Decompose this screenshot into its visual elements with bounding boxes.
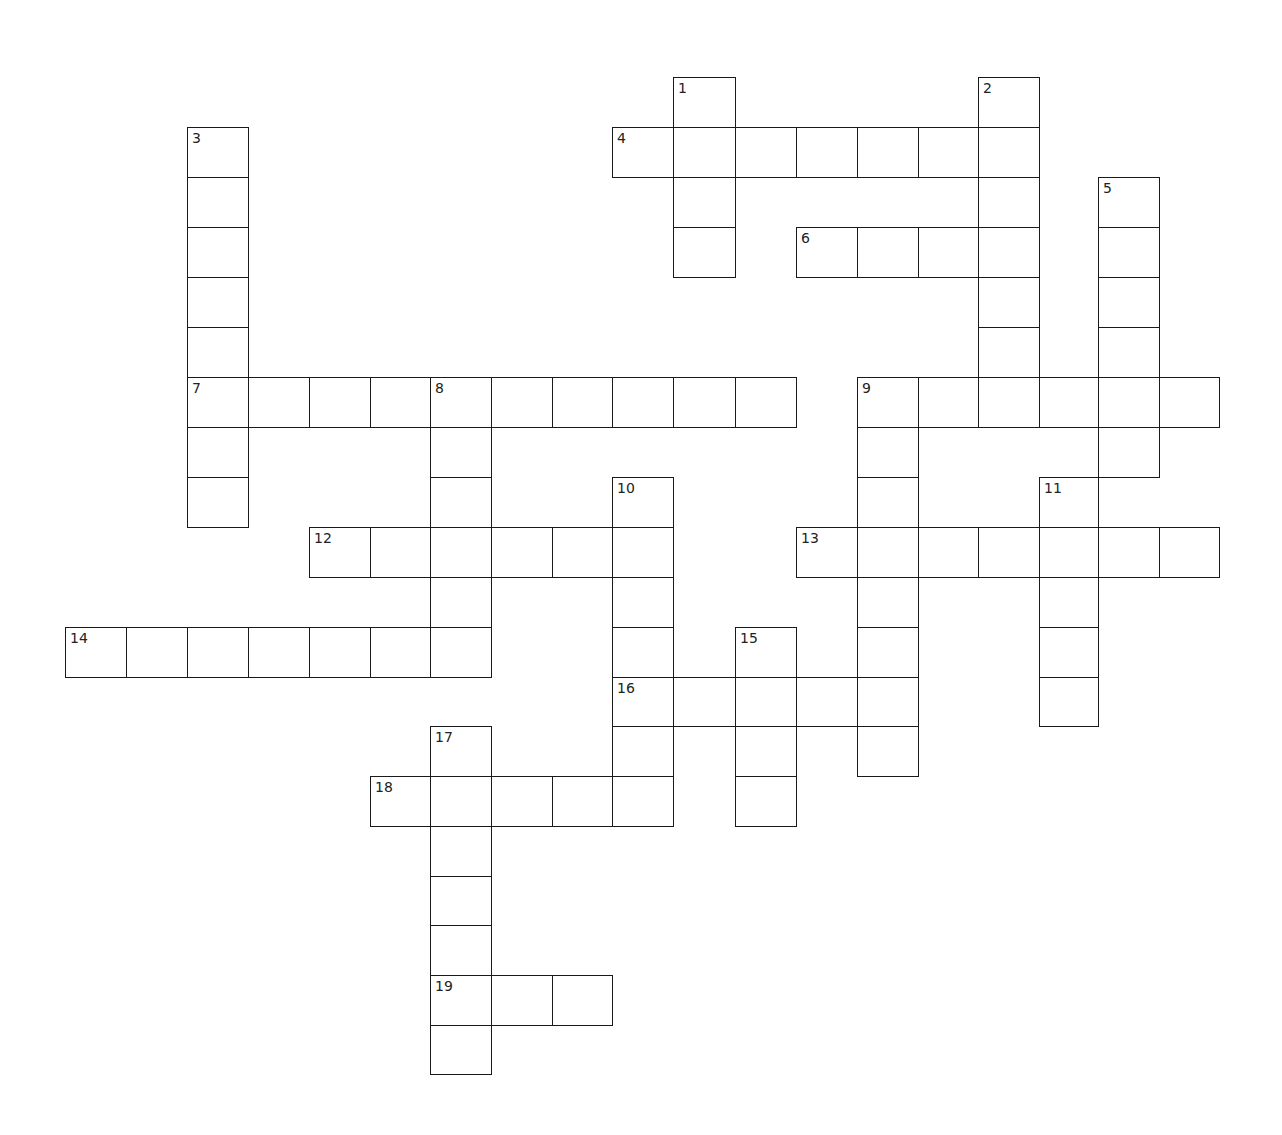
crossword-cell[interactable] bbox=[857, 627, 919, 678]
crossword-cell[interactable] bbox=[1098, 327, 1160, 378]
crossword-cell[interactable] bbox=[978, 527, 1040, 578]
crossword-cell[interactable]: 2 bbox=[978, 77, 1040, 128]
crossword-cell[interactable]: 16 bbox=[612, 677, 674, 727]
crossword-cell[interactable] bbox=[1039, 527, 1099, 578]
crossword-cell[interactable] bbox=[1098, 377, 1160, 428]
crossword-cell[interactable] bbox=[430, 925, 492, 976]
crossword-cell[interactable] bbox=[370, 377, 431, 428]
crossword-cell[interactable] bbox=[370, 627, 431, 678]
crossword-cell[interactable] bbox=[857, 427, 919, 478]
crossword-cell[interactable] bbox=[857, 477, 919, 528]
crossword-cell[interactable] bbox=[673, 677, 736, 727]
crossword-cell[interactable] bbox=[1039, 627, 1099, 678]
crossword-cell[interactable] bbox=[612, 627, 674, 678]
crossword-cell[interactable] bbox=[126, 627, 188, 678]
crossword-cell[interactable] bbox=[735, 377, 797, 428]
crossword-cell[interactable] bbox=[248, 377, 310, 428]
crossword-cell[interactable] bbox=[430, 776, 492, 827]
crossword-cell[interactable] bbox=[857, 677, 919, 727]
crossword-cell[interactable] bbox=[918, 227, 979, 278]
crossword-cell[interactable] bbox=[187, 627, 249, 678]
crossword-cell[interactable] bbox=[430, 826, 492, 877]
crossword-cell[interactable]: 10 bbox=[612, 477, 674, 528]
crossword-cell[interactable]: 8 bbox=[430, 377, 492, 428]
crossword-cell[interactable] bbox=[309, 627, 371, 678]
crossword-cell[interactable] bbox=[918, 527, 979, 578]
crossword-cell[interactable] bbox=[1039, 377, 1099, 428]
crossword-cell[interactable] bbox=[1098, 427, 1160, 478]
crossword-cell[interactable] bbox=[918, 127, 979, 178]
crossword-cell[interactable] bbox=[918, 377, 979, 428]
crossword-cell[interactable]: 3 bbox=[187, 127, 249, 178]
crossword-cell[interactable] bbox=[735, 776, 797, 827]
crossword-cell[interactable]: 5 bbox=[1098, 177, 1160, 228]
crossword-cell[interactable] bbox=[552, 975, 613, 1026]
crossword-cell[interactable] bbox=[491, 527, 553, 578]
crossword-cell[interactable] bbox=[248, 627, 310, 678]
crossword-cell[interactable] bbox=[552, 377, 613, 428]
crossword-cell[interactable] bbox=[1039, 677, 1099, 727]
crossword-cell[interactable] bbox=[187, 227, 249, 278]
crossword-cell[interactable] bbox=[1159, 527, 1220, 578]
crossword-cell[interactable] bbox=[187, 327, 249, 378]
crossword-cell[interactable] bbox=[430, 627, 492, 678]
crossword-cell[interactable] bbox=[978, 227, 1040, 278]
crossword-cell[interactable] bbox=[309, 377, 371, 428]
crossword-cell[interactable] bbox=[978, 327, 1040, 378]
crossword-cell[interactable] bbox=[430, 1025, 492, 1075]
crossword-cell[interactable]: 19 bbox=[430, 975, 492, 1026]
crossword-cell[interactable]: 7 bbox=[187, 377, 249, 428]
crossword-cell[interactable] bbox=[552, 527, 613, 578]
crossword-cell[interactable] bbox=[612, 527, 674, 578]
crossword-cell[interactable] bbox=[1159, 377, 1220, 428]
crossword-cell[interactable]: 4 bbox=[612, 127, 674, 178]
crossword-cell[interactable]: 14 bbox=[65, 627, 127, 678]
crossword-cell[interactable] bbox=[430, 577, 492, 628]
crossword-cell[interactable] bbox=[673, 177, 736, 228]
crossword-cell[interactable] bbox=[612, 577, 674, 628]
crossword-cell[interactable]: 18 bbox=[370, 776, 431, 827]
crossword-cell[interactable] bbox=[430, 427, 492, 478]
crossword-cell[interactable] bbox=[857, 127, 919, 178]
crossword-cell[interactable] bbox=[430, 527, 492, 578]
crossword-cell[interactable] bbox=[857, 227, 919, 278]
crossword-cell[interactable] bbox=[491, 776, 553, 827]
crossword-cell[interactable]: 13 bbox=[796, 527, 858, 578]
crossword-cell[interactable] bbox=[673, 377, 736, 428]
crossword-cell[interactable] bbox=[1098, 527, 1160, 578]
crossword-cell[interactable]: 6 bbox=[796, 227, 858, 278]
crossword-cell[interactable]: 9 bbox=[857, 377, 919, 428]
crossword-cell[interactable] bbox=[673, 227, 736, 278]
crossword-cell[interactable] bbox=[857, 527, 919, 578]
crossword-cell[interactable]: 11 bbox=[1039, 477, 1099, 528]
crossword-cell[interactable] bbox=[430, 477, 492, 528]
crossword-cell[interactable] bbox=[978, 377, 1040, 428]
crossword-cell[interactable] bbox=[430, 876, 492, 926]
crossword-cell[interactable] bbox=[612, 726, 674, 777]
crossword-cell[interactable] bbox=[735, 677, 797, 727]
crossword-cell[interactable] bbox=[1098, 227, 1160, 278]
crossword-cell[interactable] bbox=[187, 177, 249, 228]
crossword-cell[interactable] bbox=[978, 277, 1040, 328]
crossword-cell[interactable] bbox=[612, 377, 674, 428]
crossword-cell[interactable] bbox=[735, 726, 797, 777]
crossword-cell[interactable] bbox=[370, 527, 431, 578]
crossword-cell[interactable]: 12 bbox=[309, 527, 371, 578]
crossword-cell[interactable] bbox=[612, 776, 674, 827]
crossword-cell[interactable] bbox=[187, 427, 249, 478]
crossword-cell[interactable] bbox=[1098, 277, 1160, 328]
crossword-cell[interactable] bbox=[1039, 577, 1099, 628]
crossword-cell[interactable]: 15 bbox=[735, 627, 797, 678]
crossword-cell[interactable] bbox=[857, 577, 919, 628]
crossword-cell[interactable] bbox=[978, 177, 1040, 228]
crossword-cell[interactable] bbox=[857, 726, 919, 777]
crossword-cell[interactable] bbox=[187, 477, 249, 528]
crossword-cell[interactable] bbox=[187, 277, 249, 328]
crossword-cell[interactable] bbox=[552, 776, 613, 827]
crossword-cell[interactable] bbox=[978, 127, 1040, 178]
crossword-cell[interactable]: 1 bbox=[673, 77, 736, 128]
crossword-cell[interactable] bbox=[491, 377, 553, 428]
crossword-cell[interactable] bbox=[796, 127, 858, 178]
crossword-cell[interactable] bbox=[491, 975, 553, 1026]
crossword-cell[interactable] bbox=[796, 677, 858, 727]
